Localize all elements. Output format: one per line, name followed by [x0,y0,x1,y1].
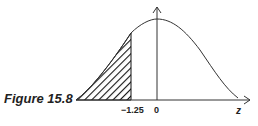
shaded-left-tail [76,33,131,100]
tick-zero: 0 [154,105,159,115]
tick-neg-1-25: −1.25 [121,105,144,115]
x-axis-label: z [236,105,241,116]
figure-caption: Figure 15.8 [4,91,73,106]
